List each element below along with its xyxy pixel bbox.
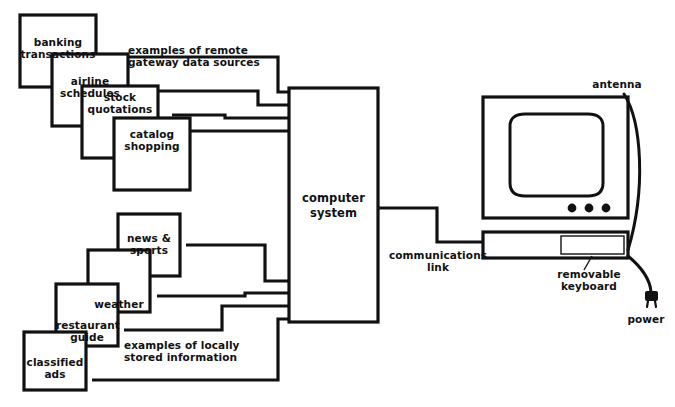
connector-news-sports [186,245,290,281]
connector-weather [157,293,290,296]
tv-indicator-1 [568,204,577,213]
keyboard-unit[interactable] [483,232,628,258]
power-cord-group [628,256,658,307]
power-plug-prong-left [647,301,648,307]
box-computer-system[interactable] [289,88,378,322]
diagram-canvas: banking transactions airline schedules s… [0,0,675,407]
television-monitor[interactable] [483,97,628,218]
communications-link-line [378,208,484,242]
remote-source-boxes [20,15,190,190]
local-source-boxes [24,214,180,390]
tv-indicator-2 [585,204,594,213]
diagram-vector-layer [0,0,675,407]
connector-airline [147,91,290,105]
connector-classified-ads [92,319,290,380]
box-classified-ads[interactable] [24,332,86,390]
tv-screen [510,114,603,196]
power-plug-prong-right [655,301,656,307]
power-plug-body [645,291,658,301]
power-cord [628,256,651,292]
tv-indicator-3 [602,204,611,213]
box-catalog-shopping[interactable] [114,118,190,190]
